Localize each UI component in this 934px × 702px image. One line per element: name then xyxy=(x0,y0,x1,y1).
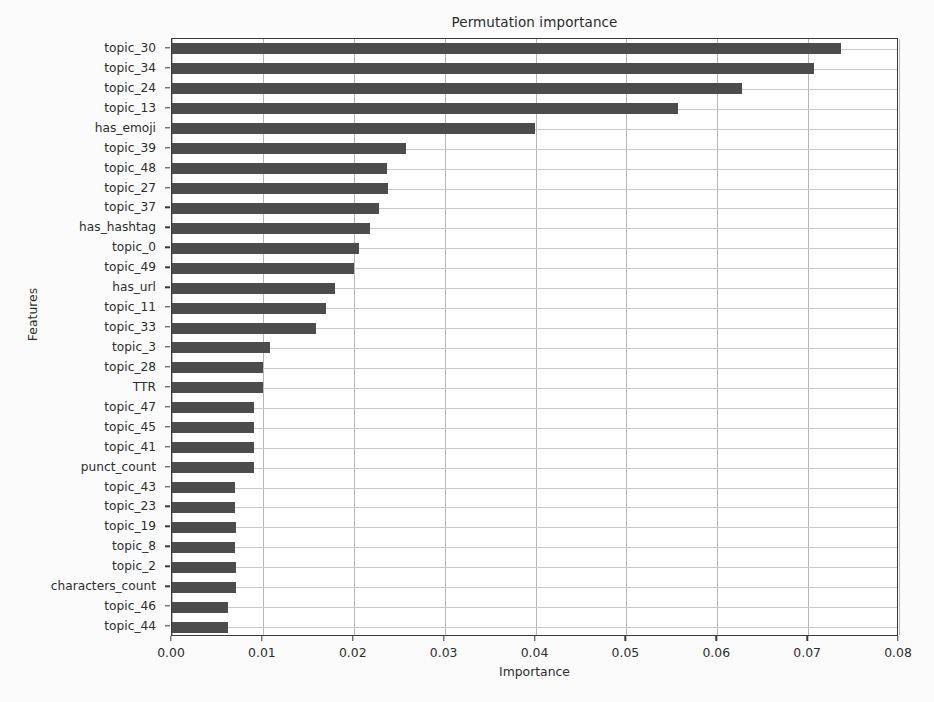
bar xyxy=(172,83,742,94)
bar xyxy=(172,402,254,413)
bar xyxy=(172,442,254,453)
bar xyxy=(172,223,370,234)
bar xyxy=(172,143,406,154)
y-tick-label: topic_27 xyxy=(104,181,156,195)
chart-title: Permutation importance xyxy=(171,14,898,30)
y-tick-mark xyxy=(165,346,170,347)
bar xyxy=(172,422,254,433)
y-tick-mark xyxy=(165,486,170,487)
y-tick-label: topic_46 xyxy=(104,599,156,613)
y-tick-mark xyxy=(165,526,170,527)
y-tick-label: topic_33 xyxy=(104,320,156,334)
y-tick-mark xyxy=(165,247,170,248)
y-tick-mark xyxy=(165,67,170,68)
y-axis-title: Features xyxy=(25,265,40,365)
y-tick-mark xyxy=(165,546,170,547)
y-tick-mark xyxy=(165,506,170,507)
y-tick-label: topic_41 xyxy=(104,440,156,454)
plot-area xyxy=(171,38,898,636)
y-tick-label: has_hashtag xyxy=(79,220,156,234)
bar xyxy=(172,482,235,493)
y-tick-mark xyxy=(165,207,170,208)
x-tick-mark xyxy=(443,636,444,641)
y-tick-label: topic_11 xyxy=(104,300,156,314)
y-tick-label: topic_8 xyxy=(112,539,156,553)
y-tick-label: topic_3 xyxy=(112,340,156,354)
x-tick-label: 0.03 xyxy=(430,645,458,660)
bar xyxy=(172,163,387,174)
y-tick-label: topic_47 xyxy=(104,400,156,414)
y-tick-label: topic_0 xyxy=(112,240,156,254)
y-tick-mark xyxy=(165,585,170,586)
bar xyxy=(172,522,236,533)
x-axis-title: Importance xyxy=(171,664,898,679)
y-tick-label: topic_44 xyxy=(104,619,156,633)
y-tick-mark xyxy=(165,625,170,626)
y-tick-label: topic_49 xyxy=(104,260,156,274)
y-tick-mark xyxy=(165,227,170,228)
permutation-importance-figure: Permutation importance topic_30topic_34t… xyxy=(0,0,934,702)
x-tick-label: 0.05 xyxy=(612,645,640,660)
bar xyxy=(172,602,228,613)
y-tick-label: topic_19 xyxy=(104,519,156,533)
x-tick-label: 0.02 xyxy=(339,645,367,660)
y-tick-label: topic_30 xyxy=(104,41,156,55)
y-tick-mark xyxy=(165,566,170,567)
bar xyxy=(172,243,359,254)
y-tick-label: characters_count xyxy=(51,579,156,593)
x-tick-label: 0.08 xyxy=(884,645,912,660)
y-tick-mark xyxy=(165,326,170,327)
x-tick-mark xyxy=(806,636,807,641)
y-tick-label: topic_34 xyxy=(104,61,156,75)
x-tick-mark xyxy=(716,636,717,641)
y-tick-label: topic_24 xyxy=(104,81,156,95)
x-tick-mark xyxy=(625,636,626,641)
y-tick-label: TTR xyxy=(133,380,156,394)
bar-series xyxy=(172,39,897,635)
bar xyxy=(172,323,316,334)
bar xyxy=(172,582,236,593)
y-tick-mark xyxy=(165,267,170,268)
y-tick-mark xyxy=(165,386,170,387)
y-tick-mark xyxy=(165,167,170,168)
y-tick-mark xyxy=(165,406,170,407)
x-tick-label: 0.04 xyxy=(521,645,549,660)
y-tick-mark xyxy=(165,286,170,287)
bar xyxy=(172,263,354,274)
bar xyxy=(172,63,814,74)
y-tick-mark xyxy=(165,446,170,447)
bar xyxy=(172,203,379,214)
y-tick-label: has_emoji xyxy=(95,121,156,135)
bar xyxy=(172,123,535,134)
x-axis-tick-labels: 0.000.010.020.030.040.050.060.070.08 xyxy=(171,636,898,666)
y-tick-mark xyxy=(165,47,170,48)
bar xyxy=(172,462,254,473)
y-tick-mark xyxy=(165,426,170,427)
y-tick-label: has_url xyxy=(112,280,156,294)
x-tick-label: 0.00 xyxy=(157,645,185,660)
y-tick-mark xyxy=(165,605,170,606)
y-tick-label: topic_39 xyxy=(104,141,156,155)
y-tick-label: topic_13 xyxy=(104,101,156,115)
x-tick-mark xyxy=(170,636,171,641)
y-tick-mark xyxy=(165,306,170,307)
bar xyxy=(172,103,678,114)
y-tick-label: punct_count xyxy=(81,460,156,474)
y-tick-label: topic_48 xyxy=(104,161,156,175)
bar xyxy=(172,283,335,294)
y-tick-mark xyxy=(165,187,170,188)
bar xyxy=(172,303,326,314)
y-tick-label: topic_28 xyxy=(104,360,156,374)
bar xyxy=(172,183,388,194)
y-tick-mark xyxy=(165,127,170,128)
x-gridline xyxy=(899,39,900,635)
y-tick-label: topic_23 xyxy=(104,499,156,513)
x-tick-mark xyxy=(261,636,262,641)
y-tick-label: topic_43 xyxy=(104,480,156,494)
y-tick-mark xyxy=(165,87,170,88)
y-tick-mark xyxy=(165,466,170,467)
bar xyxy=(172,502,235,513)
bar xyxy=(172,43,841,54)
bar xyxy=(172,542,235,553)
y-tick-label: topic_45 xyxy=(104,420,156,434)
